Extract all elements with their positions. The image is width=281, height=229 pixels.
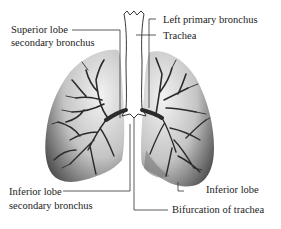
trachea bbox=[122, 11, 146, 118]
label-bifurcation-of-trachea: Bifurcation of trachea bbox=[172, 204, 264, 217]
label-inferior-lobe-secondary-line2: secondary bronchus bbox=[9, 200, 93, 213]
label-superior-lobe-line1: Superior lobe bbox=[11, 24, 68, 37]
label-trachea: Trachea bbox=[163, 30, 196, 43]
label-inferior-lobe: Inferior lobe bbox=[206, 184, 259, 197]
label-left-primary-bronchus: Left primary bronchus bbox=[163, 14, 257, 27]
label-superior-lobe-line2: secondary bronchus bbox=[11, 37, 95, 50]
label-inferior-lobe-secondary-line1: Inferior lobe bbox=[9, 186, 62, 199]
